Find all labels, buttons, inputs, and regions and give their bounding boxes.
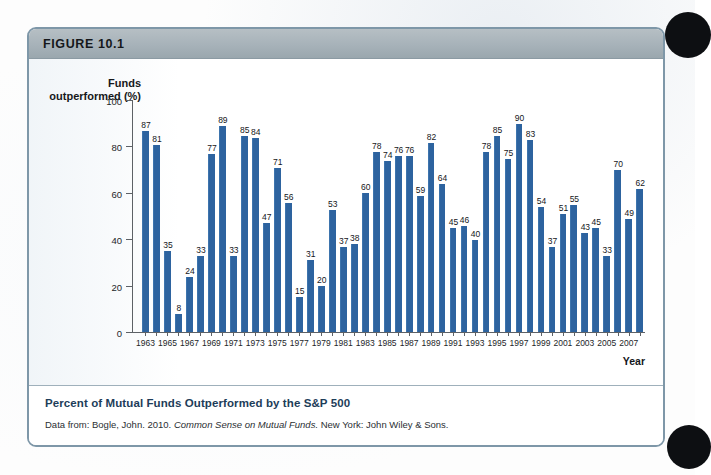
bar-value-label: 8 bbox=[177, 304, 182, 313]
bar-value-label: 51 bbox=[559, 204, 568, 213]
bar-slot: 78 bbox=[481, 101, 492, 332]
x-tick-mark bbox=[266, 333, 267, 336]
y-tick-mark bbox=[126, 146, 133, 147]
bar: 53 bbox=[329, 210, 336, 332]
bar-slot: 76 bbox=[404, 101, 415, 332]
bar: 60 bbox=[362, 193, 369, 332]
x-tick-mark bbox=[442, 333, 443, 336]
x-tick-mark bbox=[563, 333, 564, 336]
x-slot: 1973 bbox=[250, 333, 261, 351]
y-tick-label: 80 bbox=[111, 142, 122, 153]
bar: 71 bbox=[274, 168, 281, 332]
bar-value-label: 76 bbox=[394, 146, 403, 155]
x-slot: 1989 bbox=[426, 333, 437, 351]
figure-caption-area: Percent of Mutual Funds Outperformed by … bbox=[29, 385, 663, 445]
bar-slot: 81 bbox=[151, 101, 162, 332]
x-slot: 1967 bbox=[184, 333, 195, 351]
x-tick-mark bbox=[618, 333, 619, 336]
bar: 33 bbox=[603, 256, 610, 332]
bar-value-label: 49 bbox=[625, 209, 634, 218]
figure-caption-title: Percent of Mutual Funds Outperformed by … bbox=[45, 397, 647, 409]
x-tick-mark bbox=[354, 333, 355, 336]
y-tick-mark bbox=[126, 239, 133, 240]
bar: 81 bbox=[153, 145, 160, 332]
bar-value-label: 43 bbox=[581, 223, 590, 232]
x-tick-mark bbox=[530, 333, 531, 336]
x-slot: 1991 bbox=[448, 333, 459, 351]
x-tick-mark bbox=[431, 333, 432, 336]
x-slot: 2003 bbox=[579, 333, 590, 351]
bar-slot: 20 bbox=[316, 101, 327, 332]
source-author: Bogle, John. 2010. bbox=[92, 419, 171, 430]
bar: 33 bbox=[197, 256, 204, 332]
bar-value-label: 70 bbox=[614, 160, 623, 169]
bar: 35 bbox=[164, 251, 171, 332]
x-tick-mark bbox=[640, 333, 641, 336]
bar: 70 bbox=[614, 170, 621, 332]
bar: 43 bbox=[581, 233, 588, 332]
bar-slot: 82 bbox=[426, 101, 437, 332]
x-tick-mark bbox=[310, 333, 311, 336]
bar-slot: 43 bbox=[579, 101, 590, 332]
x-tick-mark bbox=[156, 333, 157, 336]
bar: 31 bbox=[307, 260, 314, 332]
x-tick-mark bbox=[453, 333, 454, 336]
x-tick-mark bbox=[178, 333, 179, 336]
bar-value-label: 71 bbox=[273, 158, 282, 167]
bar-slot: 87 bbox=[140, 101, 151, 332]
bar: 59 bbox=[417, 196, 424, 332]
bar-slot: 55 bbox=[568, 101, 579, 332]
bar-slot: 90 bbox=[513, 101, 524, 332]
x-tick-mark bbox=[299, 333, 300, 336]
bar: 62 bbox=[636, 189, 643, 332]
bar: 64 bbox=[439, 184, 446, 332]
x-tick-mark bbox=[552, 333, 553, 336]
bar: 8 bbox=[175, 314, 182, 332]
y-tick-label: 100 bbox=[106, 96, 122, 107]
bar-slot: 76 bbox=[393, 101, 404, 332]
x-tick-mark bbox=[497, 333, 498, 336]
source-prefix: Data from: bbox=[45, 419, 89, 430]
x-slot: 1971 bbox=[228, 333, 239, 351]
x-tick-mark bbox=[486, 333, 487, 336]
x-tick-mark bbox=[343, 333, 344, 336]
bar-slot: 37 bbox=[338, 101, 349, 332]
bar: 38 bbox=[351, 244, 358, 332]
x-tick-mark bbox=[464, 333, 465, 336]
x-slot: 1985 bbox=[382, 333, 393, 351]
bar-slot: 40 bbox=[470, 101, 481, 332]
x-tick-mark bbox=[167, 333, 168, 336]
x-slot: 2001 bbox=[557, 333, 568, 351]
x-tick-mark bbox=[574, 333, 575, 336]
x-tick-mark bbox=[200, 333, 201, 336]
bar-value-label: 55 bbox=[570, 195, 579, 204]
bar: 45 bbox=[592, 228, 599, 332]
bar-slot: 89 bbox=[217, 101, 228, 332]
bar-slot: 83 bbox=[524, 101, 535, 332]
bar-slot: 45 bbox=[448, 101, 459, 332]
bar-value-label: 46 bbox=[460, 216, 469, 225]
scan-artifact-dot-bottom bbox=[667, 425, 711, 469]
bar-value-label: 82 bbox=[427, 133, 436, 142]
x-tick-mark bbox=[409, 333, 410, 336]
bar-value-label: 87 bbox=[141, 121, 150, 130]
x-tick-mark bbox=[332, 333, 333, 336]
x-tick-mark bbox=[233, 333, 234, 336]
bar: 87 bbox=[142, 131, 149, 332]
x-tick-mark bbox=[398, 333, 399, 336]
bar-slot: 77 bbox=[206, 101, 217, 332]
bar-value-label: 85 bbox=[493, 126, 502, 135]
x-tick-mark bbox=[420, 333, 421, 336]
bar: 77 bbox=[208, 154, 215, 332]
bar: 90 bbox=[516, 124, 523, 332]
bar-value-label: 37 bbox=[339, 237, 348, 246]
bar-value-label: 24 bbox=[185, 267, 194, 276]
bar-slot: 49 bbox=[623, 101, 634, 332]
bar-value-label: 78 bbox=[482, 142, 491, 151]
x-tick-mark bbox=[189, 333, 190, 336]
x-tick-mark bbox=[376, 333, 377, 336]
y-tick-mark bbox=[126, 193, 133, 194]
bar-value-label: 77 bbox=[207, 144, 216, 153]
y-tick-label: 40 bbox=[111, 235, 122, 246]
x-slot: 1995 bbox=[492, 333, 503, 351]
